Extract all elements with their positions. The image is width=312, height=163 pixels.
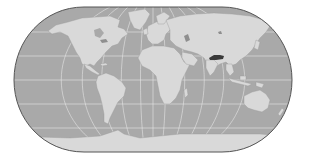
world-map: eckert-iv-like pseudocylindrical [0, 0, 312, 163]
world-map-svg [0, 0, 312, 163]
